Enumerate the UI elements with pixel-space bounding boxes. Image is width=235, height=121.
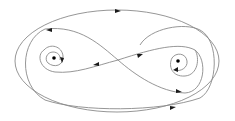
arrow-crossing-upper-right	[137, 54, 143, 58]
right-spiral	[171, 50, 198, 76]
phase-portrait-diagram	[0, 0, 235, 121]
arrow-left-spiral	[60, 57, 64, 63]
right-fixed-point	[176, 59, 180, 63]
inner-orbit	[25, 26, 214, 108]
left-spiral	[44, 46, 63, 65]
left-fixed-point	[52, 56, 56, 60]
arrow-crossing-lower-left	[93, 62, 99, 66]
arrow-outer-bottom	[170, 106, 176, 110]
outer-orbit	[15, 10, 219, 112]
arrow-right-spiral	[173, 67, 178, 72]
